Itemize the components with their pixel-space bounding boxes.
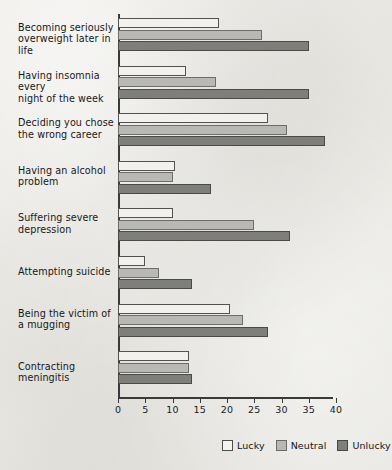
legend-item-neutral: Neutral	[276, 440, 327, 451]
category-label-line: the wrong career	[18, 129, 114, 141]
legend-swatch-neutral-icon	[276, 440, 287, 451]
bar-lucky-2	[118, 66, 186, 76]
x-tick-10	[173, 398, 174, 403]
category-label-line: Suffering severe	[18, 212, 114, 224]
x-tick-30	[282, 398, 283, 403]
legend-label-neutral: Neutral	[291, 440, 327, 451]
bar-lucky-3	[118, 113, 268, 123]
bar-neutral-8	[118, 363, 189, 373]
category-label-line: Deciding you chose	[18, 117, 114, 129]
bar-neutral-4	[118, 172, 173, 182]
x-tick-label-40: 40	[330, 404, 343, 415]
category-label-line: depression	[18, 224, 114, 236]
x-tick-label-30: 30	[275, 404, 288, 415]
bar-unlucky-7	[118, 327, 268, 337]
category-label-2: Having insomnia everynight of the week	[18, 70, 114, 105]
category-label-line: Having insomnia every	[18, 70, 114, 93]
bar-neutral-1	[118, 30, 262, 40]
category-label-line: problem	[18, 176, 114, 188]
bar-unlucky-4	[118, 184, 211, 194]
bar-unlucky-3	[118, 136, 325, 146]
x-tick-35	[309, 398, 310, 403]
x-tick-40	[336, 398, 337, 403]
category-label-line: Attempting suicide	[18, 266, 114, 278]
x-tick-25	[254, 398, 255, 403]
category-label-5: Suffering severedepression	[18, 212, 114, 235]
bar-neutral-2	[118, 77, 216, 87]
x-tick-15	[200, 398, 201, 403]
x-tick-label-15: 15	[194, 404, 207, 415]
bar-lucky-8	[118, 351, 189, 361]
legend-label-lucky: Lucky	[237, 440, 265, 451]
category-label-4: Having an alcoholproblem	[18, 165, 114, 188]
category-label-line: Having an alcohol	[18, 165, 114, 177]
legend-swatch-unlucky-icon	[337, 440, 348, 451]
chart-legend: LuckyNeutralUnlucky	[222, 440, 391, 451]
x-tick-20	[227, 398, 228, 403]
legend-item-unlucky: Unlucky	[337, 440, 390, 451]
bar-unlucky-5	[118, 231, 290, 241]
grouped-bar-chart: 0510152025303540 Becoming seriouslyoverw…	[0, 0, 392, 470]
category-label-line: a mugging	[18, 319, 114, 331]
category-label-line: Being the victim of	[18, 308, 114, 320]
x-tick-label-35: 35	[303, 404, 316, 415]
x-tick-label-0: 0	[115, 404, 121, 415]
category-label-line: Contracting meningitis	[18, 361, 114, 384]
legend-label-unlucky: Unlucky	[352, 440, 390, 451]
bar-lucky-5	[118, 208, 173, 218]
bar-neutral-6	[118, 268, 159, 278]
bar-neutral-5	[118, 220, 254, 230]
x-tick-5	[145, 398, 146, 403]
bar-lucky-6	[118, 256, 145, 266]
bar-unlucky-6	[118, 279, 192, 289]
category-label-7: Being the victim ofa mugging	[18, 308, 114, 331]
x-tick-label-5: 5	[142, 404, 148, 415]
category-label-line: Becoming seriously	[18, 22, 114, 34]
bar-lucky-1	[118, 18, 219, 28]
x-tick-label-10: 10	[166, 404, 179, 415]
legend-swatch-lucky-icon	[222, 440, 233, 451]
legend-item-lucky: Lucky	[222, 440, 265, 451]
category-label-8: Contracting meningitis	[18, 361, 114, 384]
category-label-line: overweight later in life	[18, 33, 114, 56]
x-axis-line	[118, 397, 333, 399]
category-label-1: Becoming seriouslyoverweight later in li…	[18, 22, 114, 57]
category-label-3: Deciding you chosethe wrong career	[18, 117, 114, 140]
bar-lucky-4	[118, 161, 175, 171]
bar-neutral-3	[118, 125, 287, 135]
x-tick-label-25: 25	[248, 404, 261, 415]
x-tick-0	[118, 398, 119, 403]
bar-unlucky-2	[118, 89, 309, 99]
bar-lucky-7	[118, 304, 230, 314]
bar-neutral-7	[118, 315, 243, 325]
category-label-line: night of the week	[18, 93, 114, 105]
bar-unlucky-1	[118, 41, 309, 51]
category-label-6: Attempting suicide	[18, 266, 114, 278]
x-tick-label-20: 20	[221, 404, 234, 415]
bar-unlucky-8	[118, 374, 192, 384]
